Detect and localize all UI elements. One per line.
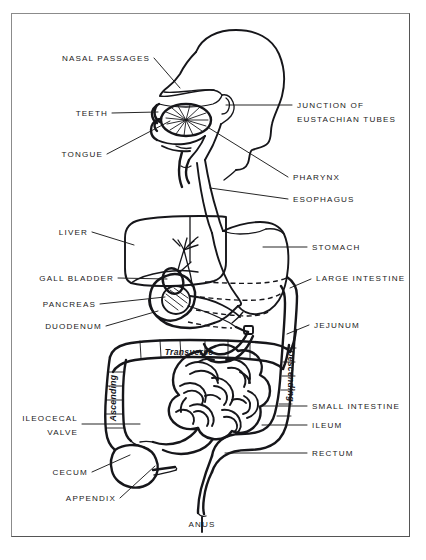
stomach-group	[212, 222, 288, 323]
gallbladder-group	[159, 237, 198, 296]
si-loop-12	[194, 411, 208, 426]
leader-pancreas	[100, 297, 165, 304]
label-descending-colon: Descending	[286, 350, 296, 402]
label-nasal-passages: NASAL PASSAGES	[62, 54, 150, 63]
skull-outline-path	[196, 30, 284, 170]
hidden-edges-group	[188, 277, 288, 328]
liver-outline-path	[125, 216, 226, 286]
ileum-to-cecum-path	[140, 441, 153, 442]
label-tongue: TONGUE	[62, 150, 103, 159]
si-loop-19	[232, 399, 246, 403]
label-teeth: TEETH	[76, 109, 108, 118]
larynx-path	[186, 160, 189, 183]
nasal-cavity-path	[164, 90, 214, 93]
label-duodenum: DUODENUM	[45, 322, 102, 331]
label-anus: ANUS	[188, 520, 215, 529]
si-loop-9	[212, 378, 233, 405]
neck-back-path	[224, 170, 236, 180]
label-rectum: RECTUM	[312, 449, 354, 458]
leader-nasal-passages	[154, 58, 180, 88]
face-front-path	[160, 52, 196, 96]
si-loop-7	[247, 391, 258, 418]
label-ileocecal-valve-line2: VALVE	[47, 428, 78, 437]
liver-group	[125, 216, 226, 286]
label-ascending-colon: Ascending	[108, 374, 118, 422]
anatomy-diagram: NASAL PASSAGES TEETH TONGUE JUNCTION OF …	[0, 0, 426, 560]
label-gall-bladder: GALL BLADDER	[39, 274, 114, 283]
leader-pharynx	[209, 128, 288, 177]
label-liver: LIVER	[59, 228, 88, 237]
duodenojejunal-path	[236, 327, 248, 332]
transverse-colon-bottom-path	[113, 357, 283, 372]
label-pharynx: PHARYNX	[293, 173, 340, 182]
si-loop-8	[243, 396, 250, 414]
si-loop-14	[224, 417, 237, 432]
pancreas-head-path	[162, 286, 190, 314]
label-junction-eustachian-line2: EUSTACHIAN TUBES	[297, 115, 396, 124]
si-loop-3	[226, 359, 250, 383]
si-loop-6	[184, 391, 203, 404]
si-loop-18	[205, 395, 220, 399]
appendix-path	[153, 467, 175, 470]
leader-duodenum	[106, 311, 158, 326]
digestive-system-figure: NASAL PASSAGES TEETH TONGUE JUNCTION OF …	[0, 0, 426, 560]
label-appendix: APPENDIX	[66, 494, 116, 503]
esophagus-group	[197, 160, 223, 233]
pharynx-group	[176, 95, 236, 187]
callout-labels-group: NASAL PASSAGES TEETH TONGUE JUNCTION OF …	[22, 54, 405, 529]
label-large-intestine: LARGE INTESTINE	[316, 274, 405, 283]
si-loop-4	[228, 368, 245, 387]
cardia-path	[223, 229, 266, 234]
leader-tongue	[107, 121, 170, 154]
eustachian-pocket-path	[222, 98, 229, 114]
label-cecum: CECUM	[53, 468, 88, 477]
mouth-floor-path	[157, 136, 205, 144]
hidden-stomach-edge-2	[200, 292, 283, 300]
label-pancreas: PANCREAS	[43, 300, 96, 309]
trachea-front-path	[179, 152, 182, 187]
label-esophagus: ESOPHAGUS	[293, 195, 355, 204]
label-stomach: STOMACH	[312, 243, 360, 252]
head-outline-group	[159, 30, 284, 170]
label-ileum: ILEUM	[312, 421, 343, 430]
leader-jejunum	[287, 325, 309, 334]
label-jejunum: JEJUNUM	[314, 321, 360, 330]
si-loop-15	[176, 410, 194, 424]
label-small-intestine: SMALL INTESTINE	[312, 402, 400, 411]
leader-esophagus	[210, 188, 288, 199]
label-ileocecal-valve-line1: ILEOCECAL	[22, 414, 78, 423]
esophagus-left-path	[197, 163, 212, 233]
hyoid-path	[176, 146, 191, 148]
ileum-terminal-inner-path	[163, 439, 213, 454]
rectum-inner-path	[198, 456, 212, 513]
cecum-path	[111, 445, 158, 488]
label-transverse-colon: Transverse	[165, 347, 214, 357]
leader-liver	[92, 232, 134, 245]
label-junction-eustachian-line1: JUNCTION OF	[297, 101, 364, 110]
ileum-terminal-outer-path	[153, 428, 198, 444]
